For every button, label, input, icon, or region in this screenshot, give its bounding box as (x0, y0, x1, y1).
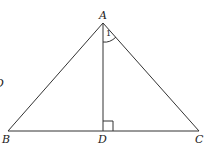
label-d: D (97, 133, 107, 146)
triangle-diagram: A B C D 1 D (0, 0, 207, 160)
label-angle-1: 1 (106, 29, 111, 38)
label-c: C (195, 133, 204, 146)
segment-ac (103, 23, 199, 131)
label-a: A (98, 9, 107, 22)
label-b: B (1, 133, 10, 146)
segment-ab (8, 23, 103, 131)
label-edge-fragment: D (0, 77, 4, 90)
right-angle-marker (103, 121, 113, 131)
